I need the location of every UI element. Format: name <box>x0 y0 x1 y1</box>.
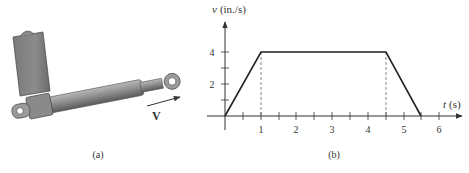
actuator-tube <box>43 79 144 114</box>
x-tick-5: 5 <box>402 124 407 135</box>
caption-a: (a) <box>92 149 103 161</box>
figure: V (a) 2 4 1 2 <box>0 0 469 173</box>
motor-housing <box>13 32 50 96</box>
x-tick-2: 2 <box>294 124 299 135</box>
x-tick-4: 4 <box>366 124 371 135</box>
x-tick-1: 1 <box>259 124 264 135</box>
actuator-illustration: V <box>10 31 182 123</box>
x-tick-3: 3 <box>330 124 335 135</box>
clamp-collar <box>26 93 54 119</box>
y-tick-2: 2 <box>210 79 215 90</box>
velocity-label: V <box>152 109 161 123</box>
y-tick-4: 4 <box>210 47 215 58</box>
y-axis-label: v(in./s) <box>212 3 246 16</box>
x-axis-label: t(s) <box>443 98 461 111</box>
x-tick-6: 6 <box>437 124 442 135</box>
actuator-rod <box>140 78 164 92</box>
velocity-time-graph: 2 4 1 2 3 4 5 6 v(in./s) t(s) <box>207 3 462 135</box>
velocity-arrow <box>147 97 180 106</box>
velocity-profile-line <box>225 52 421 116</box>
caption-b: (b) <box>328 149 340 161</box>
